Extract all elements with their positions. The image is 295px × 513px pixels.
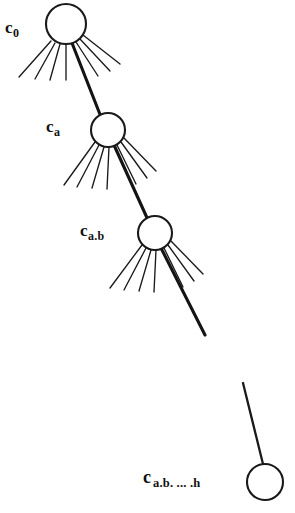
node-circle-cabh (247, 464, 283, 500)
node-label-cab-subscript: a.b (88, 229, 105, 243)
node-label-ca-subscript: a (54, 125, 61, 139)
node-circle-ca (91, 113, 125, 147)
spoke-ca-4 (107, 147, 109, 189)
node-circle-cab (138, 216, 172, 250)
node-group-cabh (243, 383, 283, 500)
spoke-ca-1 (64, 142, 95, 185)
node-label-ca: ca (46, 118, 60, 138)
spoke-cab-3 (139, 250, 151, 291)
trunk-cab-dangling (161, 248, 205, 335)
spoke-ca-5 (117, 145, 136, 184)
node-label-c0-base: c (5, 18, 13, 37)
diagram-canvas: c0 ca ca.b ca.b. ... .h (0, 0, 295, 513)
node-label-c0-subscript: 0 (13, 26, 20, 40)
node-group-cab (110, 216, 205, 335)
spoke-cab-1 (110, 245, 142, 288)
node-circle-c0 (46, 4, 86, 44)
spoke-cab-4 (154, 250, 156, 292)
node-label-cabh-base: c (143, 467, 151, 487)
edge-to-leaf (243, 383, 263, 464)
node-group-c0 (19, 4, 120, 117)
spoke-c0-7 (83, 35, 120, 64)
node-group-ca (64, 113, 156, 220)
node-label-cab: ca.b (80, 222, 104, 242)
trunk-c0-to-ca (72, 43, 101, 117)
node-label-ca-base: c (46, 117, 54, 136)
spoke-cab-7 (171, 241, 203, 274)
branching-chain-figure (0, 0, 295, 513)
spoke-ca-3 (92, 147, 104, 188)
node-label-cabh: ca.b. ... .h (143, 468, 200, 490)
node-label-cab-base: c (80, 221, 88, 240)
spoke-cab-5 (164, 248, 183, 287)
spoke-ca-7 (124, 138, 156, 171)
node-label-cabh-subscript: a.b. ... .h (151, 476, 200, 490)
node-label-c0: c0 (5, 19, 19, 39)
